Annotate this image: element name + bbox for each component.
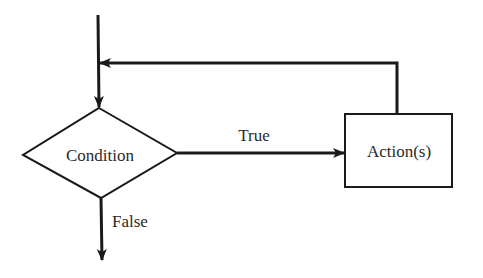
false-label: False	[112, 212, 148, 231]
actions-node: Action(s)	[345, 114, 452, 187]
true-label: True	[238, 126, 270, 145]
actions-label: Action(s)	[367, 142, 431, 161]
condition-label: Condition	[66, 146, 135, 165]
condition-node: Condition	[23, 108, 177, 198]
flowchart-canvas: Condition True Action(s) False	[0, 0, 483, 278]
false-arrow	[101, 198, 102, 260]
entry-arrow	[98, 15, 99, 107]
loop-back-arrow	[100, 63, 397, 114]
